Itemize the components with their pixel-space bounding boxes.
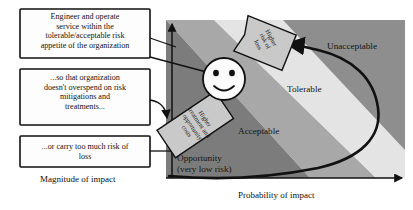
figure-canvas: Engineer and operate service within the … <box>0 0 413 210</box>
smiley-face-shape <box>203 58 245 100</box>
callout-risk-of-loss-text: ...or carry too much risk of loss <box>22 142 148 161</box>
smiley-right-eye <box>229 70 235 77</box>
y-axis-label: Magnitude of impact <box>40 174 115 184</box>
zone-unacceptable-label: Unacceptable <box>327 41 377 52</box>
callout-overspend-text: ...so that organization doesn't overspen… <box>22 73 148 111</box>
zone-opportunity-label: Opportunity (very low risk) <box>177 153 232 174</box>
x-axis-label: Probability of impact <box>238 190 315 200</box>
smiley-left-eye <box>213 70 219 77</box>
zone-acceptable-label: Acceptable <box>238 126 279 137</box>
callout-engineer-text: Engineer and operate service within the … <box>22 12 148 50</box>
zone-tolerable-label: Tolerable <box>287 84 322 95</box>
leader-line-overspend <box>150 100 167 118</box>
